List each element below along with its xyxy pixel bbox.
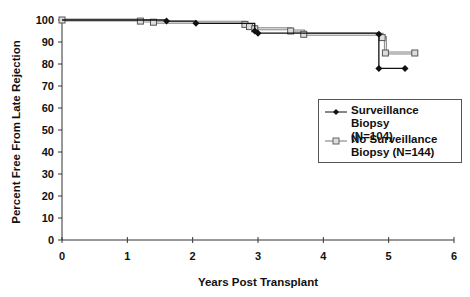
- y-tick-label: 0: [48, 234, 54, 246]
- y-tick-label: 100: [36, 14, 54, 26]
- open-square-marker: [412, 50, 418, 56]
- y-tick-label: 30: [42, 168, 54, 180]
- x-axis-label: Years Post Transplant: [198, 276, 318, 288]
- y-tick-label: 40: [42, 146, 54, 158]
- x-tick-label: 1: [124, 250, 130, 262]
- legend-label: No Surveillance: [351, 133, 457, 146]
- open-square-icon: [323, 133, 351, 146]
- y-tick-label: 80: [42, 58, 54, 70]
- y-tick-label: 90: [42, 36, 54, 48]
- filled-diamond-marker: [375, 65, 382, 72]
- open-square-marker: [137, 18, 143, 24]
- y-tick-label: 20: [42, 190, 54, 202]
- x-tick-label: 3: [255, 250, 261, 262]
- y-tick-label: 50: [42, 124, 54, 136]
- x-tick-label: 2: [190, 250, 196, 262]
- x-tick-label: 0: [59, 250, 65, 262]
- open-square-marker: [301, 31, 307, 37]
- y-tick-label: 60: [42, 102, 54, 114]
- legend-item-no-surveillance: No Surveillance Biopsy (N=144): [323, 133, 457, 159]
- y-tick-label: 70: [42, 80, 54, 92]
- x-tick-label: 4: [320, 250, 327, 262]
- x-tick-label: 5: [386, 250, 392, 262]
- legend: Surveillance Biopsy (N=104) No Surveilla…: [318, 99, 462, 163]
- filled-diamond-icon: [323, 104, 351, 117]
- legend-label: Surveillance Biopsy: [351, 104, 457, 130]
- y-tick-label: 10: [42, 212, 54, 224]
- series-surveillance: [62, 18, 409, 72]
- x-tick-label: 6: [451, 250, 457, 262]
- open-square-marker: [382, 50, 388, 56]
- y-axis-label: Percent Free From Late Rejection: [10, 40, 22, 223]
- filled-diamond-marker: [402, 65, 409, 72]
- legend-label-n: Biopsy (N=144): [351, 146, 457, 159]
- series-layer: [59, 17, 418, 72]
